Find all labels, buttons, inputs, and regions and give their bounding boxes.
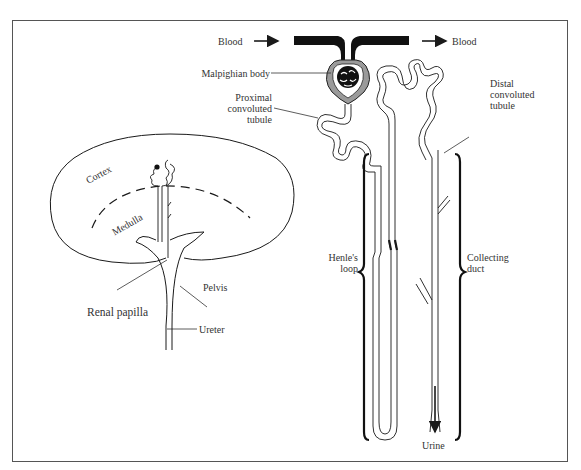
ureter-label: Ureter: [199, 324, 225, 335]
henles-loop-label: Henle's loop: [318, 252, 358, 274]
pelvis-label: Pelvis: [203, 282, 227, 293]
henles-loop: [373, 66, 402, 440]
blood-out-label: Blood: [452, 36, 476, 47]
collecting-duct: [416, 150, 450, 432]
leader-lines: [117, 73, 469, 329]
collecting-duct-label: Collecting duct: [467, 252, 509, 274]
malpighian-body-label: Malpighian body: [190, 68, 270, 79]
kidney-nephron: [150, 160, 174, 258]
distal-tubule-label: Distal convoluted tubule: [490, 78, 534, 111]
kidney-nephron-diagram: [0, 0, 581, 470]
urine-label: Urine: [422, 440, 445, 451]
collecting-duct-brace: [455, 154, 465, 440]
proximal-tubule-label: Proximal convoluted tubule: [212, 92, 272, 125]
renal-papilla-label: Renal papilla: [87, 307, 148, 318]
malpighian-body: [326, 60, 369, 104]
blood-in-label: Blood: [218, 36, 242, 47]
distal-tubule: [398, 60, 443, 160]
henles-loop-brace: [359, 154, 369, 440]
kidney-outline: [50, 134, 294, 263]
renal-pelvis-ureter: [136, 232, 204, 350]
cortex-medulla-boundary: [92, 186, 250, 228]
